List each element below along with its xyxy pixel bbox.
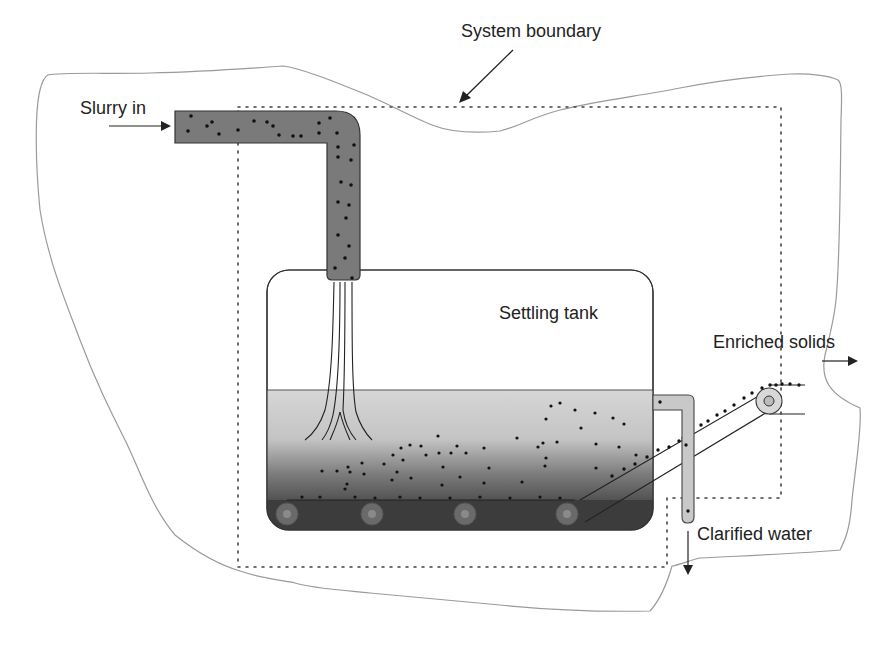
inlet-pipe [175,111,360,280]
system-boundary-arrow [465,50,513,97]
clarified-water-label: Clarified water [697,525,812,543]
clarified-water-arrowhead [683,565,693,575]
system-boundary-label: System boundary [461,22,601,40]
slurry-in-arrowhead [161,121,171,131]
settling-tank-label: Settling tank [499,304,598,322]
outlet-pipe [653,395,694,523]
enriched-solids-arrowhead [848,356,858,366]
enriched-solids-label: Enriched solids [713,333,835,351]
slurry-in-label: Slurry in [80,99,146,117]
